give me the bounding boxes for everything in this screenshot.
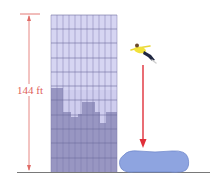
building [51, 15, 117, 172]
airbag [120, 151, 189, 172]
arrow-down-icon [27, 165, 31, 171]
height-label: 144 ft [16, 84, 44, 96]
arrow-down-icon [140, 139, 147, 148]
arrow-up-icon [27, 15, 31, 21]
jumper-figure [131, 44, 156, 64]
fall-arrow [140, 65, 147, 148]
